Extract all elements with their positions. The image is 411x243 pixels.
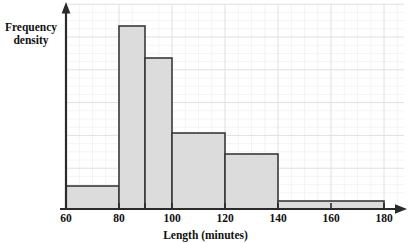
- histogram-bar: [119, 26, 145, 209]
- x-tick-label-120: 120: [205, 212, 245, 224]
- y-axis-title: Frequency density: [0, 21, 62, 46]
- x-tick-label-160: 160: [311, 212, 351, 224]
- histogram-bar: [172, 133, 225, 209]
- histogram-bar: [145, 58, 172, 209]
- histogram-figure: Frequency density Length (minutes) 60 80…: [0, 0, 411, 243]
- y-axis-title-line2: density: [0, 34, 62, 47]
- x-tick-label-140: 140: [258, 212, 298, 224]
- y-axis-title-line1: Frequency: [5, 21, 57, 33]
- y-axis: [62, 2, 71, 209]
- x-tick-label-180: 180: [364, 212, 404, 224]
- x-axis-title: Length (minutes): [0, 229, 411, 241]
- histogram-bar: [66, 186, 119, 209]
- x-tick-label-60: 60: [46, 212, 86, 224]
- histogram-bar: [225, 154, 278, 209]
- x-tick-label-100: 100: [152, 212, 192, 224]
- x-tick-label-80: 80: [99, 212, 139, 224]
